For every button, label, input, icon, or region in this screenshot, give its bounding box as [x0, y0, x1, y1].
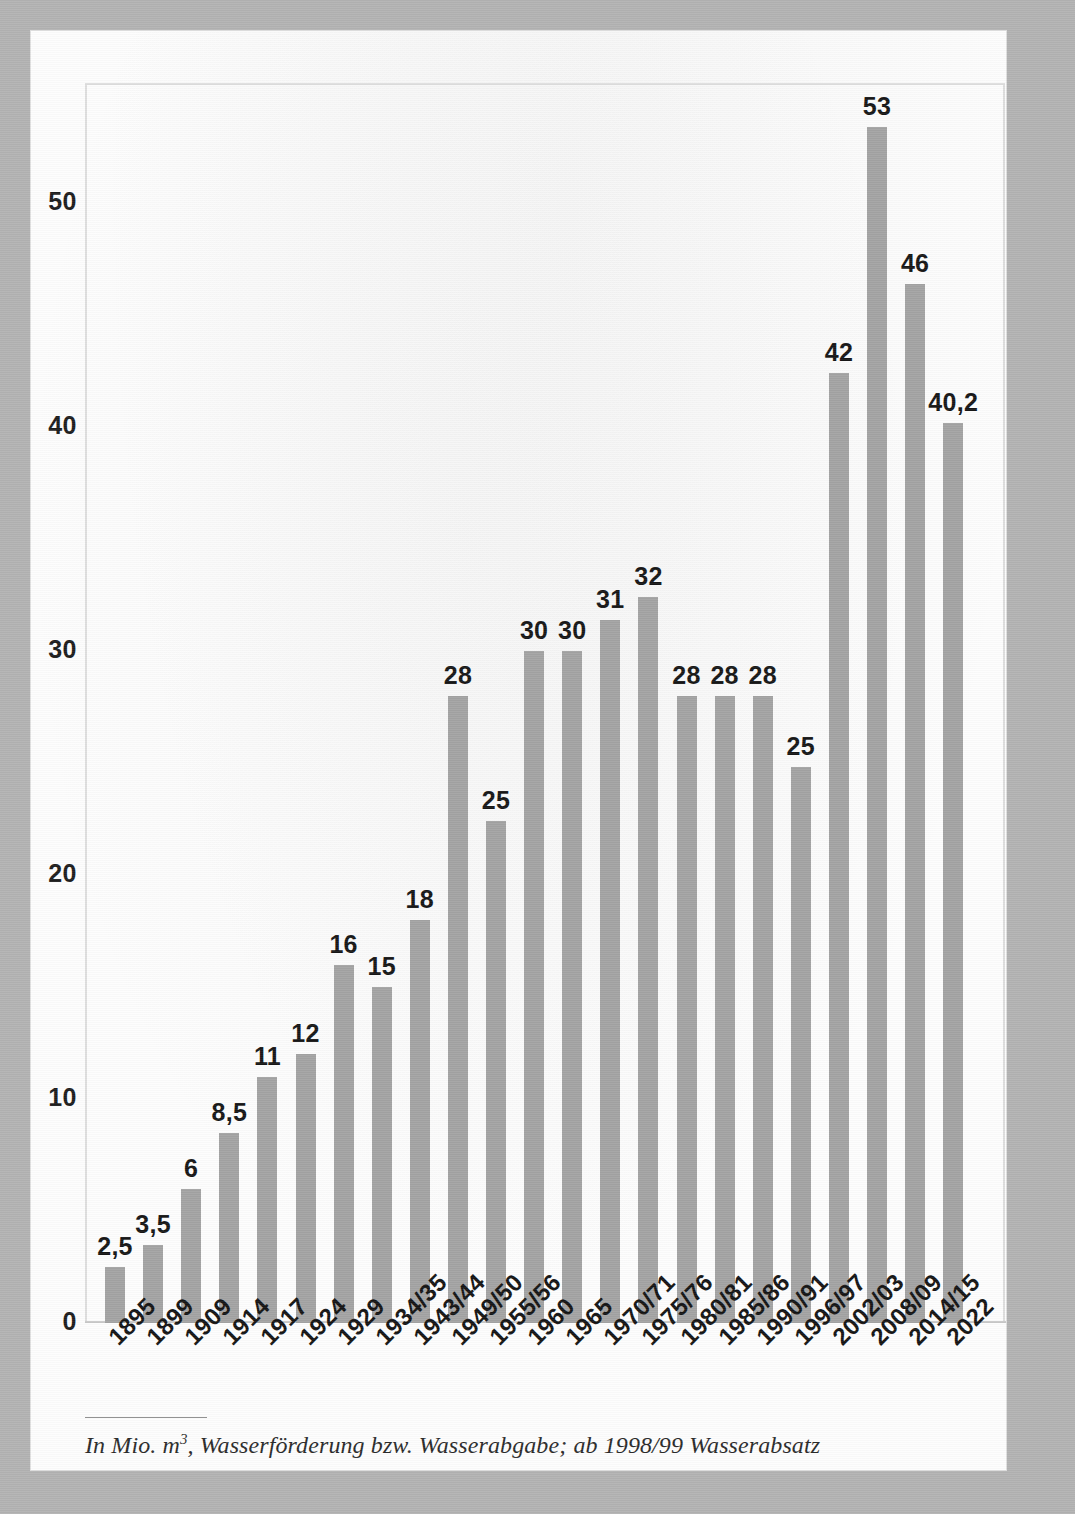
- bar-value-label: 53: [863, 92, 891, 121]
- bar: [943, 423, 963, 1323]
- footnote-rule: [85, 1417, 207, 1418]
- bar: [410, 920, 430, 1323]
- page-sheet: 01020304050 2,53,568,5111216151828253030…: [31, 31, 1006, 1470]
- bar-value-label: 30: [520, 616, 548, 645]
- bar-value-label: 28: [672, 661, 700, 690]
- bar: [524, 651, 544, 1323]
- bar-value-label: 30: [558, 616, 586, 645]
- bar: [791, 767, 811, 1323]
- bar-value-label: 12: [291, 1019, 319, 1048]
- bar-value-label: 40,2: [928, 388, 978, 417]
- bar-value-label: 28: [748, 661, 776, 690]
- y-axis-tick-20: 20: [33, 859, 77, 888]
- bar-value-label: 18: [406, 885, 434, 914]
- bar-value-label: 15: [367, 952, 395, 981]
- bar: [372, 987, 392, 1323]
- bar-value-label: 11: [254, 1042, 281, 1071]
- bar: [867, 127, 887, 1323]
- footnote-prefix: In Mio. m: [85, 1432, 180, 1458]
- bar-value-label: 25: [787, 732, 815, 761]
- footnote-text: In Mio. m3, Wasserförderung bzw. Wassera…: [85, 1431, 820, 1459]
- bar-value-label: 2,5: [97, 1232, 133, 1261]
- bar-value-label: 16: [329, 930, 357, 959]
- bar-value-label: 31: [596, 585, 624, 614]
- bar-value-label: 6: [184, 1154, 198, 1183]
- bars-container: 2,53,568,5111216151828253030313228282825…: [85, 83, 1005, 1323]
- bar: [829, 373, 849, 1323]
- bar: [715, 696, 735, 1323]
- y-axis-tick-40: 40: [33, 411, 77, 440]
- bar-value-label: 25: [482, 786, 510, 815]
- y-axis-tick-0: 0: [33, 1307, 77, 1336]
- bar: [486, 821, 506, 1323]
- bar: [677, 696, 697, 1323]
- y-axis-ticks: 01020304050: [31, 31, 77, 1470]
- bar-value-label: 3,5: [135, 1210, 171, 1239]
- y-axis-tick-50: 50: [33, 187, 77, 216]
- bar: [448, 696, 468, 1323]
- y-axis-tick-30: 30: [33, 635, 77, 664]
- scan-border: 01020304050 2,53,568,5111216151828253030…: [0, 0, 1075, 1514]
- bar: [905, 284, 925, 1323]
- bar: [296, 1054, 316, 1323]
- bar: [753, 696, 773, 1323]
- bar-value-label: 28: [444, 661, 472, 690]
- footnote-suffix: , Wasserförderung bzw. Wasserabgabe; ab …: [187, 1432, 820, 1458]
- bar-value-label: 28: [710, 661, 738, 690]
- x-axis-labels: 18951899190919141917192419291934/351943/…: [85, 1323, 1005, 1443]
- bar: [638, 597, 658, 1323]
- bar: [600, 620, 620, 1323]
- bar-value-label: 46: [901, 249, 929, 278]
- bar: [257, 1077, 277, 1323]
- bar-value-label: 8,5: [211, 1098, 247, 1127]
- bar-value-label: 32: [634, 562, 662, 591]
- bar-value-label: 42: [825, 338, 853, 367]
- bar: [219, 1133, 239, 1323]
- bar: [334, 965, 354, 1323]
- bar: [562, 651, 582, 1323]
- y-axis-tick-10: 10: [33, 1083, 77, 1112]
